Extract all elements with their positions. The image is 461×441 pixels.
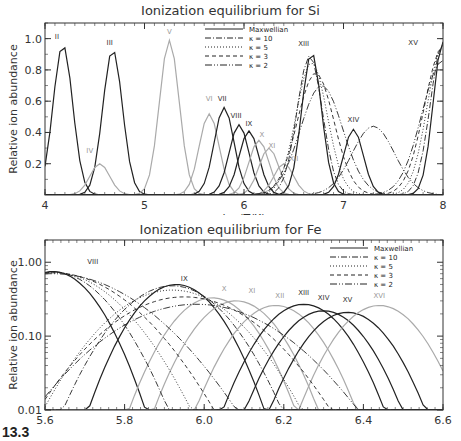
ion-label: XII (275, 292, 284, 300)
ion-label: XIII (298, 40, 309, 48)
fe-chart: Ionization equilibrium for Fe 5.65.86.06… (0, 220, 461, 425)
ion-label: XV (408, 39, 418, 47)
series-curve (45, 56, 443, 195)
series-curve (45, 304, 443, 410)
y-tick-label: 1.0 (25, 33, 43, 46)
ion-label: XIII (298, 289, 309, 297)
legend-label: κ = 2 (374, 281, 393, 289)
x-tick-label: 6 (241, 199, 248, 212)
ion-label: XIV (318, 294, 330, 302)
plot-frame (45, 23, 443, 195)
ion-label: II (55, 33, 59, 41)
y-axis-label: Relative ion abundance (7, 44, 20, 174)
series-curve (45, 301, 443, 410)
series-curve (45, 131, 443, 195)
si-chart-plot: 456780.20.40.60.81.0log(T/K)Relative ion… (0, 0, 461, 215)
series-curve (45, 290, 443, 410)
legend-label: κ = 5 (374, 263, 393, 271)
ion-label: XV (343, 296, 353, 304)
ion-label: X (260, 131, 265, 139)
ion-label: XI (268, 142, 275, 150)
ion-label: XI (249, 287, 256, 295)
series-curve (45, 304, 443, 410)
series-curve (45, 48, 443, 195)
ion-label: XVI (373, 292, 385, 300)
y-tick-label: 0.10 (18, 330, 43, 343)
x-tick-label: 8 (440, 199, 447, 212)
x-axis-label: log(T/K) (223, 212, 266, 215)
y-tick-label: 0.6 (25, 95, 43, 108)
series-curve (45, 311, 443, 410)
x-tick-label: 5 (141, 199, 148, 212)
ion-label: IV (86, 147, 93, 155)
series-curve (45, 107, 443, 195)
series-curve (45, 43, 443, 195)
x-tick-label: 4 (42, 199, 49, 212)
legend-label: κ = 2 (249, 62, 268, 70)
y-tick-label: 1.00 (18, 256, 43, 269)
ion-label: VIII (87, 258, 98, 266)
legend-label: κ = 10 (374, 254, 397, 262)
series-curve (45, 53, 443, 196)
x-tick-label: 7 (340, 199, 347, 212)
series-curve (45, 56, 443, 195)
series-curve (45, 63, 443, 195)
legend-label: κ = 10 (249, 35, 272, 43)
fe-chart-plot: 5.65.86.06.26.46.60.010.101.00log(T/K)Re… (0, 220, 461, 425)
series-curve (45, 285, 443, 411)
ion-label: X (222, 285, 227, 293)
ion-label: III (107, 39, 113, 47)
ion-label: XII (289, 155, 298, 163)
legend-label: κ = 5 (249, 44, 268, 52)
ion-label: VIII (231, 112, 242, 120)
si-chart: Ionization equilibrium for Si 456780.20.… (0, 0, 461, 215)
ion-label: XIV (348, 116, 360, 124)
series-curve (45, 148, 443, 195)
series-curve (45, 61, 443, 196)
ion-label: VI (206, 95, 213, 103)
ion-label: V (167, 28, 172, 36)
ion-label: IX (181, 275, 188, 283)
x-tick-label: 6.4 (355, 414, 373, 425)
y-tick-label: 0.01 (18, 404, 43, 417)
figure-label: 13.3 (2, 424, 29, 440)
legend-label: κ = 3 (374, 272, 393, 280)
legend-label: Maxwellian (249, 26, 288, 34)
legend-label: Maxwellian (374, 245, 413, 253)
ion-label: VII (218, 95, 227, 103)
y-tick-label: 0.4 (25, 126, 43, 139)
series-curve (45, 45, 443, 195)
x-tick-label: 6.6 (434, 414, 452, 425)
series-curve (45, 42, 443, 195)
series-curve (45, 286, 443, 410)
y-axis-label: Relative ion abundance (7, 260, 20, 390)
x-tick-label: 6.0 (195, 414, 213, 425)
y-tick-label: 0.8 (25, 64, 43, 77)
series-curve (45, 40, 443, 195)
legend-label: κ = 3 (249, 53, 268, 61)
curves (45, 40, 443, 195)
ion-label: IX (246, 120, 253, 128)
x-tick-label: 6.2 (275, 414, 293, 425)
series-curve (45, 47, 443, 196)
x-tick-label: 5.8 (116, 414, 134, 425)
y-tick-label: 0.2 (25, 158, 43, 171)
